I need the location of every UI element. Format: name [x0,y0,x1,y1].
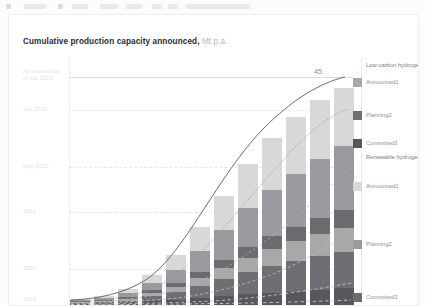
legend-swatch-re-planning [353,240,362,249]
app-chrome-bar [0,0,425,13]
curve-2021 [71,231,351,304]
chrome-icon-1 [6,4,11,9]
legend-heading-renewable: Renewable hydrogen [366,154,419,161]
chart-card: Cumulative production capacity announced… [8,14,419,306]
legend-item-lc-planning[interactable]: Planning2 [366,112,392,119]
chrome-icon-8 [168,4,178,9]
chart-legend: Low-carbon hydrogen Announced1 Planning2… [361,55,419,305]
legend-item-re-committed[interactable]: Committed3 [366,294,397,301]
legend-swatch-lc-committed [353,139,362,148]
legend-item-lc-announced[interactable]: Announced1 [366,79,399,86]
legend-label-lc-planning: Planning2 [366,112,392,118]
chart-title-unit: Mt p.a. [202,37,228,46]
legend-label-re-announced: Announced1 [366,183,399,189]
legend-item-re-planning[interactable]: Planning2 [366,241,392,248]
cumulative-curves [69,55,353,305]
vintage-label-5: 2019 [23,296,36,303]
legend-swatch-lc-announced [353,78,362,87]
plot-area: Announced asof Oct 2023 Jan 2023 May 202… [23,55,353,305]
legend-label-re-planning: Planning2 [366,241,392,247]
vintage-label-1: Jan 2023 [23,106,47,113]
chrome-icon-9 [186,4,250,9]
chrome-icon-3 [58,4,63,9]
curve-may-2022 [71,167,351,303]
chrome-icon-6 [126,4,142,9]
legend-divider [361,59,362,303]
legend-swatch-lc-planning [353,111,362,120]
chart-title-main: Cumulative production capacity announced… [23,37,200,46]
legend-swatch-re-announced [353,182,362,191]
legend-swatch-re-committed [353,293,362,302]
legend-item-lc-committed[interactable]: Committed3 [366,140,397,147]
chrome-icon-4 [72,4,88,9]
chrome-icon-7 [152,4,162,9]
legend-heading-low-carbon: Low-carbon hydrogen [366,62,419,69]
chrome-icon-5 [100,4,118,9]
legend-label-lc-committed: Committed3 [366,140,397,146]
vintage-label-4: 2020 [23,265,36,272]
legend-label-re-committed: Committed3 [366,294,397,300]
vintage-label-2: May 2022 [23,163,48,170]
legend-item-re-announced[interactable]: Announced1 [366,183,399,190]
vintage-label-0: Announced asof Oct 2023 [23,68,60,82]
value-label-45: 45 [314,67,322,76]
vintage-label-3: 2021 [23,208,36,215]
legend-label-lc-announced: Announced1 [366,79,399,85]
chrome-icon-2 [24,4,46,9]
chart-title: Cumulative production capacity announced… [23,37,228,46]
curve-oct-2023 [71,77,345,300]
curve-jan-2023 [71,109,349,302]
